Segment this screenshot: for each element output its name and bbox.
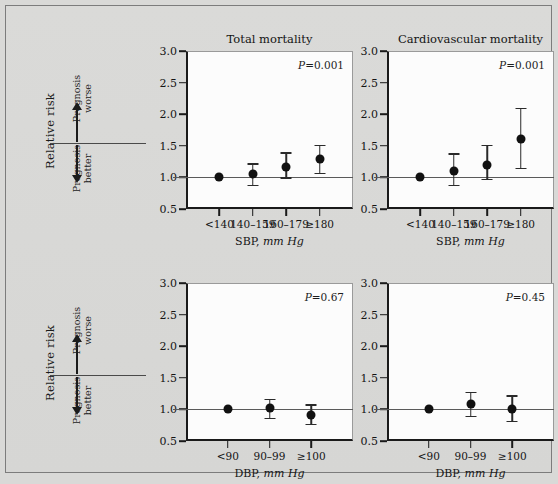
error-bar-cap-upper [465, 392, 476, 394]
y-tick-label: 3.0 [160, 277, 187, 290]
error-bar-cap-upper [507, 395, 518, 397]
y-tick-label: 1.5 [361, 371, 388, 384]
x-tick-mark [420, 209, 422, 216]
y-tick-label: 2.0 [160, 340, 187, 353]
y-tick-label: 2.5 [361, 308, 388, 321]
error-bar-cap-upper [448, 153, 459, 155]
y-tick-label: 0.5 [160, 435, 187, 448]
error-bar-cap-upper [247, 163, 258, 165]
x-tick-mark [511, 441, 513, 448]
y-tick-label: 2.5 [160, 76, 187, 89]
data-point [516, 135, 525, 144]
plot-area: P=0.45 [387, 283, 554, 441]
prognosis-worse-line1: Prognosis [71, 307, 82, 354]
x-tick-mark [520, 209, 522, 216]
x-tick-mark [428, 441, 430, 448]
x-tick-label: ≥100 [297, 450, 326, 462]
figure-canvas: Relative risk Prognosis worse Prognosis … [0, 0, 558, 484]
data-point [265, 404, 274, 413]
prognosis-worse-line2: worse [81, 316, 92, 345]
data-point [449, 167, 458, 176]
data-point [223, 405, 232, 414]
x-tick-mark [227, 441, 229, 448]
relative-risk-label: Relative risk [43, 293, 57, 433]
p-value-annotation: P=0.67 [305, 291, 344, 303]
x-axis-title: DBP, mm Hg [186, 467, 353, 480]
data-point [307, 411, 316, 420]
data-point [248, 170, 257, 179]
y-tick-label: 3.0 [160, 45, 187, 58]
x-tick-label: ≥180 [305, 218, 334, 230]
reference-line [173, 177, 353, 178]
reference-line [173, 409, 353, 410]
error-bar-cap-lower [507, 421, 518, 423]
p-value-annotation: P=0.001 [499, 59, 545, 71]
y-tick-label: 2.0 [160, 108, 187, 121]
plot-area: P=0.001 [387, 51, 554, 209]
row-axis-annotation-top: Relative risk Prognosis worse Prognosis … [14, 36, 146, 251]
x-tick-label: 90–99 [455, 450, 487, 462]
data-point [483, 160, 492, 169]
x-tick-label: 160–179 [465, 218, 510, 230]
panel-title: Cardiovascular mortality [387, 32, 554, 46]
error-bar-cap-lower [264, 418, 275, 420]
panel-dbp-total-mortality: P=0.673.02.52.01.51.00.5<9090–99≥100DBP,… [186, 283, 353, 441]
x-tick-mark [269, 441, 271, 448]
prognosis-worse-label: Prognosis worse [72, 73, 93, 125]
prognosis-better-line2: better [81, 154, 92, 184]
x-tick-label: ≥100 [498, 450, 527, 462]
error-bar-cap-lower [465, 416, 476, 418]
prognosis-better-line1: Prognosis [71, 145, 82, 192]
prognosis-better-line1: Prognosis [71, 377, 82, 424]
x-tick-mark [285, 209, 287, 216]
prognosis-worse-line1: Prognosis [71, 75, 82, 122]
y-tick-label: 3.0 [361, 277, 388, 290]
error-bar-cap-lower [281, 177, 292, 179]
data-point [315, 155, 324, 164]
x-tick-mark [319, 209, 321, 216]
error-bar-cap-lower [448, 185, 459, 187]
error-bar-cap-upper [515, 108, 526, 110]
panel-sbp-total-mortality: Total mortalityP=0.0013.02.52.01.51.00.5… [186, 51, 353, 209]
y-tick-label: 2.0 [361, 108, 388, 121]
x-axis-title: DBP, mm Hg [387, 467, 554, 480]
row-axis-annotation-bottom: Relative risk Prognosis worse Prognosis … [14, 268, 146, 483]
x-tick-label: 90–99 [254, 450, 286, 462]
x-tick-mark [219, 209, 221, 216]
y-tick-label: 0.5 [160, 203, 187, 216]
error-bar-cap-lower [314, 173, 325, 175]
data-point [466, 400, 475, 409]
y-tick-label: 2.0 [361, 340, 388, 353]
y-tick-label: 0.5 [361, 435, 388, 448]
panel-title: Total mortality [186, 32, 353, 46]
y-tick-label: 1.5 [361, 139, 388, 152]
y-tick-label: 0.5 [361, 203, 388, 216]
prognosis-worse-line2: worse [81, 84, 92, 113]
error-bar-cap-upper [281, 152, 292, 154]
axis-divider-line [50, 143, 146, 144]
error-bar-cap-lower [306, 424, 317, 426]
relative-risk-label: Relative risk [43, 61, 57, 201]
error-bar-cap-lower [482, 179, 493, 181]
prognosis-better-line2: better [81, 386, 92, 416]
figure-frame: Relative risk Prognosis worse Prognosis … [5, 5, 552, 473]
axis-divider-line [50, 375, 146, 376]
error-bar-cap-upper [482, 145, 493, 147]
error-bar-cap-upper [314, 145, 325, 147]
error-bar-cap-upper [264, 399, 275, 401]
p-value-annotation: P=0.001 [298, 59, 344, 71]
x-tick-label: 160–179 [264, 218, 309, 230]
panel-sbp-cardiovascular-mortality: Cardiovascular mortalityP=0.0013.02.52.0… [387, 51, 554, 209]
x-tick-label: <90 [418, 450, 440, 462]
x-axis-title: SBP, mm Hg [387, 235, 554, 248]
data-point [508, 405, 517, 414]
y-tick-label: 2.5 [361, 76, 388, 89]
x-tick-mark [486, 209, 488, 216]
data-point [215, 173, 224, 182]
error-bar-cap-lower [515, 168, 526, 170]
prognosis-better-label: Prognosis better [72, 375, 93, 427]
error-bar-cap-lower [247, 185, 258, 187]
reference-line [374, 409, 554, 410]
x-axis-title: SBP, mm Hg [186, 235, 353, 248]
y-tick-label: 2.5 [160, 308, 187, 321]
